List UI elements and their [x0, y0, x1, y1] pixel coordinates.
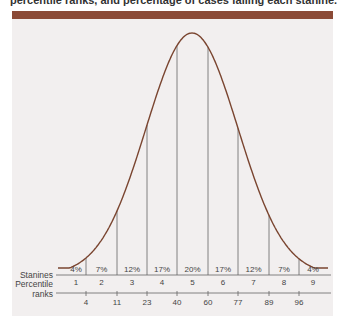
stanine-label: 2	[99, 278, 104, 287]
percentage-label: 12%	[124, 265, 140, 274]
percentile-rank-label: 40	[173, 298, 182, 307]
percentage-label: 12%	[245, 265, 261, 274]
percentile-rank-label: 60	[204, 298, 213, 307]
stanine-labels: 123456789	[74, 278, 316, 287]
percentile-rank-label: 77	[234, 298, 243, 307]
percentage-label: 4%	[307, 265, 319, 274]
percentage-label: 17%	[215, 265, 231, 274]
percentile-rank-label: 89	[265, 298, 274, 307]
percentile-rank-label: 4	[84, 298, 89, 307]
stanine-label: 1	[74, 278, 79, 287]
stanine-label: 4	[160, 278, 165, 287]
percentile-labels: 411234060778996	[84, 298, 304, 307]
percentage-labels: 4%7%12%17%20%17%12%7%4%	[70, 265, 319, 274]
percentage-label: 4%	[70, 265, 82, 274]
stanine-label: 7	[251, 278, 256, 287]
percentile-row-label-2: ranks	[32, 289, 53, 299]
stanine-label: 6	[221, 278, 226, 287]
percentile-ticks	[86, 291, 299, 296]
percentile-rank-label: 11	[113, 298, 122, 307]
stanine-boundaries	[86, 46, 299, 275]
stanine-label: 8	[282, 278, 287, 287]
normal-curve-chart: 4%7%12%17%20%17%12%7%4% 123456789 411234…	[0, 0, 347, 323]
stanine-label: 3	[130, 278, 135, 287]
percentile-rank-label: 96	[295, 298, 304, 307]
normal-curve	[58, 33, 328, 268]
percentage-label: 17%	[154, 265, 170, 274]
stanine-label: 9	[311, 278, 316, 287]
percentage-label: 7%	[278, 265, 290, 274]
percentile-rank-label: 23	[143, 298, 152, 307]
percentage-label: 20%	[184, 265, 200, 274]
percentile-row-label-1: Percentile	[15, 279, 53, 289]
stanine-label: 5	[190, 278, 195, 287]
percentage-label: 7%	[96, 265, 108, 274]
